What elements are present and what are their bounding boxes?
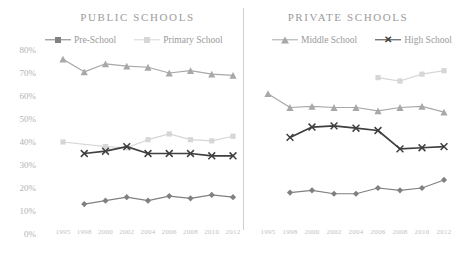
series-point-primary-school [60,139,65,144]
series-point-pre-school [353,191,359,197]
series-point-pre-school [331,191,337,197]
series-point-middle-school [81,68,88,75]
series-line-primary-school [378,71,444,81]
series-point-primary-school [375,75,380,80]
series-point-pre-school [187,195,193,201]
series-point-primary-school [188,137,193,142]
series-point-primary-school [230,134,235,139]
series-point-primary-school [441,68,446,73]
series-point-primary-school [145,137,150,142]
series-point-pre-school [375,185,381,191]
series-point-high-school [287,134,294,141]
series-point-pre-school [309,187,315,193]
series-point-middle-school [440,109,447,116]
plot-area [0,0,466,254]
series-point-pre-school [166,193,172,199]
series-point-primary-school [397,78,402,83]
series-point-primary-school [209,138,214,143]
series-line-high-school [290,126,444,149]
series-point-pre-school [419,185,425,191]
series-point-pre-school [441,177,447,183]
series-point-middle-school [264,90,271,97]
series-point-pre-school [81,201,87,207]
series-point-pre-school [230,194,236,200]
series-point-pre-school [287,190,293,196]
series-point-pre-school [145,198,151,204]
series-point-pre-school [397,187,403,193]
chart-root: PUBLIC SCHOOLS PRIVATE SCHOOLS Pre-Schoo… [0,0,466,254]
series-point-pre-school [209,192,215,198]
series-point-primary-school [419,72,424,77]
series-point-pre-school [102,198,108,204]
series-point-pre-school [124,194,130,200]
series-point-middle-school [59,56,66,63]
series-point-primary-school [167,131,172,136]
